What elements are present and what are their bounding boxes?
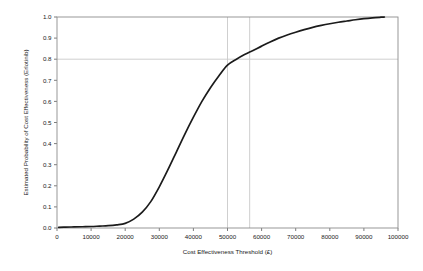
chart-figure: 0100002000030000400005000060000700008000… bbox=[0, 0, 423, 271]
x-tick-label: 30000 bbox=[151, 233, 169, 240]
y-tick-label: 0.8 bbox=[43, 55, 52, 62]
y-tick-label: 1.0 bbox=[43, 13, 52, 20]
y-tick-label: 0.0 bbox=[43, 224, 52, 231]
y-tick-label: 0.4 bbox=[43, 140, 52, 147]
x-tick-label: 40000 bbox=[185, 233, 203, 240]
x-tick-label: 10000 bbox=[82, 233, 100, 240]
x-tick-label: 20000 bbox=[117, 233, 135, 240]
x-tick-label: 0 bbox=[55, 233, 59, 240]
x-tick-label: 90000 bbox=[355, 233, 373, 240]
y-tick-label: 0.1 bbox=[43, 203, 52, 210]
y-tick-label: 0.7 bbox=[43, 77, 52, 84]
y-tick-label: 0.9 bbox=[43, 34, 52, 41]
x-axis-title: Cost Effectiveness Threshold (£) bbox=[183, 248, 273, 255]
y-tick-label: 0.2 bbox=[43, 182, 52, 189]
y-tick-label: 0.6 bbox=[43, 98, 52, 105]
y-tick-label: 0.3 bbox=[43, 161, 52, 168]
cost-effectiveness-acceptability-curve: 0100002000030000400005000060000700008000… bbox=[0, 0, 423, 271]
y-tick-label: 0.5 bbox=[43, 119, 52, 126]
y-axis-title: Estimated Probability of Cost Effectiven… bbox=[22, 49, 29, 195]
x-tick-label: 70000 bbox=[287, 233, 305, 240]
x-tick-label: 50000 bbox=[219, 233, 237, 240]
x-tick-label: 100000 bbox=[388, 233, 409, 240]
x-tick-label: 60000 bbox=[253, 233, 271, 240]
x-tick-label: 80000 bbox=[321, 233, 339, 240]
